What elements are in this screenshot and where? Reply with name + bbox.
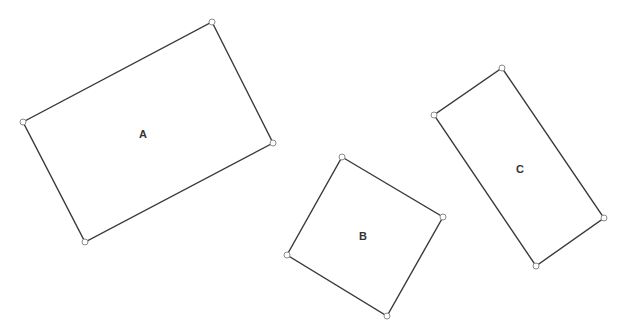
shape-a-outline: [23, 22, 273, 242]
vertex-handle[interactable]: [20, 119, 26, 125]
vertex-handle[interactable]: [284, 252, 290, 258]
shape-b[interactable]: B: [284, 154, 446, 319]
vertex-handle[interactable]: [384, 313, 390, 319]
vertex-handle[interactable]: [270, 140, 276, 146]
shape-b-label: B: [359, 230, 367, 242]
shape-a[interactable]: A: [20, 19, 276, 245]
vertex-handle[interactable]: [499, 65, 505, 71]
vertex-handle[interactable]: [440, 214, 446, 220]
vertex-handle[interactable]: [533, 263, 539, 269]
vertex-handle[interactable]: [339, 154, 345, 160]
shape-a-vertices: [20, 19, 276, 245]
diagram-canvas: A B C: [0, 0, 624, 335]
shape-a-label: A: [139, 128, 147, 140]
shape-c-label: C: [516, 163, 524, 175]
vertex-handle[interactable]: [82, 239, 88, 245]
vertex-handle[interactable]: [209, 19, 215, 25]
vertex-handle[interactable]: [601, 215, 607, 221]
vertex-handle[interactable]: [431, 112, 437, 118]
shape-c[interactable]: C: [431, 65, 607, 269]
